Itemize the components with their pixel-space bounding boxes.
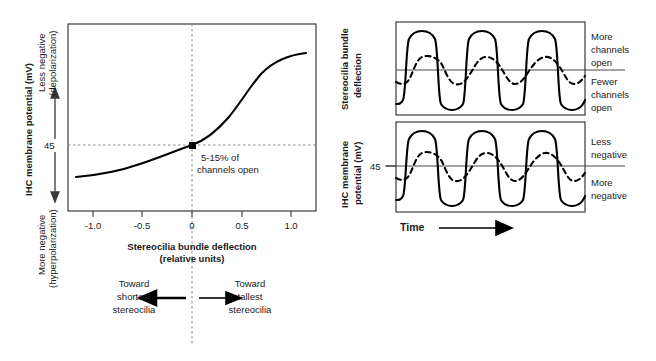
more-negative-line2: negative bbox=[591, 190, 627, 201]
left-xtick-label--1.0: -1.0 bbox=[80, 220, 106, 231]
time-arrow-head bbox=[496, 221, 512, 235]
potential-yaxis-tick-45: 45 bbox=[370, 161, 381, 172]
more-channels-open-line1: More bbox=[591, 31, 613, 42]
deflection-panel-frame bbox=[396, 22, 585, 115]
left-xtick-label-0: 0 bbox=[183, 220, 201, 231]
more-negative-line1: More bbox=[591, 177, 613, 188]
left-yaxis-bottom-label-line2: (hyperpolarization) bbox=[47, 209, 58, 288]
potential-yaxis-line2: potential (mV) bbox=[352, 142, 363, 205]
direction-right-line2: tallest bbox=[214, 291, 286, 302]
direction-left-line2: shortest bbox=[98, 291, 170, 302]
deflection-yaxis-line2: deflection bbox=[352, 53, 363, 98]
left-yaxis-bottom-label-line1: More negative bbox=[36, 215, 47, 275]
left-yaxis-tick-45: 45 bbox=[44, 140, 55, 151]
direction-right-line1: Toward bbox=[214, 278, 286, 289]
left-xtick-label-1.0: 1.0 bbox=[279, 220, 303, 231]
potential-panel-frame bbox=[396, 122, 585, 212]
left-plot-frame bbox=[68, 24, 316, 211]
direction-left-line1: Toward bbox=[98, 278, 170, 289]
fewer-channels-open-line3: open bbox=[591, 102, 612, 113]
direction-left-line3: stereocilia bbox=[98, 304, 170, 315]
time-axis-label: Time bbox=[400, 222, 424, 233]
left-yaxis-title: IHC membrane potential (mV) bbox=[23, 63, 34, 196]
more-channels-open-line3: open bbox=[591, 57, 612, 68]
transduction-sigmoid-curve bbox=[76, 53, 306, 177]
left-yaxis-top-label-line1: Less negative bbox=[36, 33, 47, 92]
left-xaxis-title-line1: Stereocilia bundle deflection bbox=[92, 241, 292, 252]
deflection-yaxis-line1: Stereocilia bundle bbox=[339, 28, 350, 110]
less-negative-line2: negative bbox=[591, 149, 627, 160]
less-negative-line1: Less bbox=[591, 136, 611, 147]
left-yaxis-top-label-line2: (depolarization) bbox=[47, 31, 58, 96]
more-channels-open-line2: channels bbox=[591, 44, 629, 55]
operating-point-marker bbox=[189, 142, 196, 149]
figure-root: IHC membrane potential (mV) Less negativ… bbox=[0, 0, 656, 361]
annotation-line2: channels open bbox=[197, 164, 259, 175]
direction-right-line3: stereocilia bbox=[214, 304, 286, 315]
fewer-channels-open-line1: Fewer bbox=[591, 76, 617, 87]
potential-large-waveform bbox=[396, 131, 585, 206]
potential-yaxis-line1: IHC membrane bbox=[339, 141, 350, 208]
left-xtick-label-0.5: 0.5 bbox=[230, 220, 254, 231]
fewer-channels-open-line2: channels bbox=[591, 89, 629, 100]
left-xtick-label--0.5: -0.5 bbox=[129, 220, 155, 231]
annotation-line1: 5-15% of bbox=[201, 152, 239, 163]
yaxis-arrow-head-down bbox=[51, 192, 59, 202]
left-xaxis-title-line2: (relative units) bbox=[92, 253, 292, 264]
